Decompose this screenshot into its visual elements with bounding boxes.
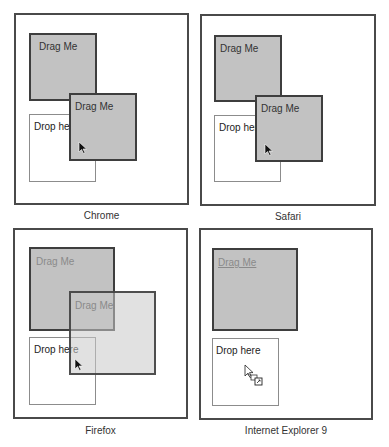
- copy-drag-cursor-icon: [244, 364, 264, 386]
- drag-source-label: Drag Me: [218, 257, 256, 268]
- arrow-pointer-icon: [264, 143, 274, 157]
- drag-source-box[interactable]: Drag Me: [29, 33, 97, 101]
- drag-image-label: Drag Me: [261, 103, 299, 114]
- panel-caption: Chrome: [14, 210, 189, 221]
- arrow-pointer-icon: [78, 141, 88, 155]
- panel-caption: Safari: [200, 211, 376, 222]
- drag-image-label: Drag Me: [75, 101, 113, 112]
- drag-image-label: Drag Me: [75, 300, 113, 311]
- arrow-pointer-icon: [74, 358, 84, 372]
- drag-source-label: Drag Me: [39, 41, 77, 52]
- drag-source-label: Drag Me: [220, 43, 258, 54]
- drag-source-label: Drag Me: [36, 256, 74, 267]
- panel-caption: Internet Explorer 9: [199, 425, 373, 436]
- drop-target-label: Drop here: [216, 345, 260, 356]
- panel-caption: Firefox: [13, 425, 188, 436]
- drag-source-box[interactable]: Drag Me: [214, 35, 282, 102]
- drag-source-box[interactable]: Drag Me: [212, 248, 298, 331]
